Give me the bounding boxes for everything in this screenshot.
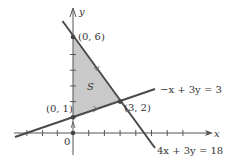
- feasible-region: [73, 37, 120, 117]
- origin-point: [71, 131, 76, 136]
- line-2-equation: 4x + 3y = 18: [157, 145, 223, 156]
- point-0-1: [71, 115, 76, 120]
- point-label-0-1: (0, 1): [46, 103, 73, 114]
- x-axis-label: x: [214, 128, 220, 139]
- origin-label: 0: [64, 136, 70, 147]
- point-label-3-2: (3, 2): [124, 102, 151, 113]
- point-label-0-6: (0, 6): [78, 31, 105, 42]
- x-axis: [14, 130, 213, 136]
- y-axis-label: y: [78, 6, 85, 17]
- point-3-2: [118, 99, 123, 104]
- region-label: S: [87, 81, 94, 92]
- line-1-equation: −x + 3y = 3: [160, 84, 222, 95]
- linear-programming-diagram: y x 0 (0, 6) (0, 1) (3, 2) S −x + 3y = 3…: [0, 0, 231, 164]
- point-0-6: [71, 35, 76, 40]
